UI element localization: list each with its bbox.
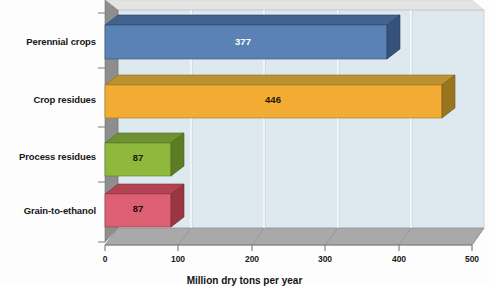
plot-floor xyxy=(105,228,484,245)
bar-top-face xyxy=(105,75,455,85)
x-tick-label-100: 100 xyxy=(164,254,192,264)
bar-value-grain-to-ethanol: 87 xyxy=(121,203,155,214)
bar-top-face xyxy=(105,133,184,143)
category-label-perennial-crops: Perennial crops xyxy=(0,36,96,47)
x-tick-label-500: 500 xyxy=(458,254,486,264)
bar-top-face xyxy=(105,184,184,194)
y-axis-ticks xyxy=(98,13,105,242)
x-tick-label-200: 200 xyxy=(238,254,266,264)
x-tick-label-300: 300 xyxy=(311,254,339,264)
x-tick-label-400: 400 xyxy=(385,254,413,264)
x-tick-label-0: 0 xyxy=(91,254,119,264)
bar-top-face xyxy=(105,15,400,25)
bar-value-perennial-crops: 377 xyxy=(226,36,260,47)
bar-value-crop-residues: 446 xyxy=(256,94,290,105)
x-axis-ticks xyxy=(105,245,472,251)
category-label-grain-to-ethanol: Grain-to-ethanol xyxy=(0,205,96,216)
category-label-crop-residues: Crop residues xyxy=(0,94,96,105)
category-label-process-residues: Process residues xyxy=(0,151,96,162)
plot-left-wall-top-edge xyxy=(105,0,484,10)
x-axis-title: Million dry tons per year xyxy=(0,275,489,286)
bar-value-process-residues: 87 xyxy=(121,152,155,163)
